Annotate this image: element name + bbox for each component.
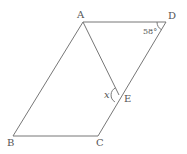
angle-arc-d <box>157 22 161 30</box>
label-angle-x: x <box>104 89 110 100</box>
label-c: C <box>96 137 104 148</box>
label-a: A <box>76 9 85 20</box>
angle-arc-e <box>111 88 115 102</box>
label-e: E <box>124 93 131 104</box>
label-d: D <box>168 10 176 21</box>
label-angle-d: 58° <box>143 27 157 36</box>
parallelogram-diagram: A D B C E x 58° <box>0 0 187 154</box>
segment-cd <box>98 22 166 136</box>
segment-ae <box>83 22 119 95</box>
segment-ab <box>13 22 83 136</box>
label-b: B <box>7 137 14 148</box>
